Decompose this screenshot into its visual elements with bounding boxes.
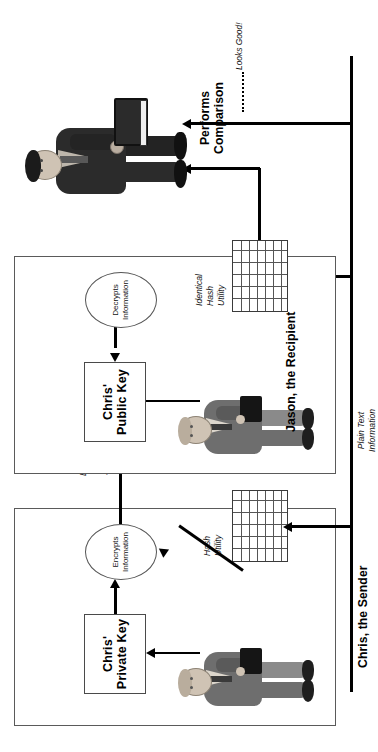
performs-comparison-label: Performs Comparison [198, 82, 226, 154]
plaintext-channel-label: Plain Text Information [356, 409, 378, 452]
plaintext-to-sender-hash-line [290, 525, 352, 528]
hash-to-comparison-line-v [190, 167, 260, 170]
plaintext-channel-line [350, 56, 353, 692]
recipient-public-key-label: Chris' Public Key [101, 363, 129, 441]
sender-person-to-key-arrow [146, 648, 155, 658]
plaintext-to-sender-hash-arrow [283, 522, 292, 532]
decrypt-to-key-arrow [110, 353, 120, 362]
jason-comparison-figure [36, 52, 186, 212]
recipient-hash-utility-grid [232, 240, 288, 312]
key-to-encrypt-arrow [110, 579, 120, 588]
chris-sender-figure [188, 596, 316, 716]
encrypts-information-label: Encrypts Information [111, 525, 131, 579]
sender-person-to-key-line [154, 652, 200, 654]
key-to-encrypt-line [114, 586, 117, 614]
diagram-viewport: Chris' Private Key Encrypts Information … [0, 0, 378, 752]
sender-hash-utility-grid [232, 490, 288, 562]
encrypts-information-ellipse: Encrypts Information [85, 524, 157, 580]
diagram-canvas: Chris' Private Key Encrypts Information … [0, 0, 378, 752]
recipient-public-key-box: Chris' Public Key [84, 362, 146, 442]
sender-panel-label: Chris, the Sender [356, 565, 370, 668]
sender-private-key-box: Chris' Private Key [84, 614, 146, 694]
recipient-panel-label: Jason, the Recipient [284, 311, 298, 432]
recipient-person-to-key-line [146, 400, 200, 402]
recipient-hash-utility-label: Identical Hash Utility [194, 274, 228, 306]
hash-to-comparison-line-h [258, 168, 261, 240]
decrypts-information-label: Decrypts Information [111, 273, 131, 327]
decrypts-information-ellipse: Decrypts Information [85, 272, 157, 328]
comparison-result-label: Looks Good! [234, 23, 244, 71]
comparison-result-connector [242, 72, 244, 112]
sender-private-key-label: Chris' Private Key [101, 615, 129, 693]
